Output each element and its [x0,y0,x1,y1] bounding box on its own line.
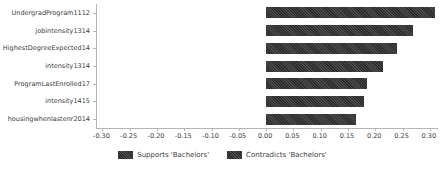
bar-chart-figure: UndergradProgram1112jobintensity1314High… [0,0,445,170]
bar [266,96,364,107]
category-label: ProgramLastEnrolled17 [0,80,90,88]
category-label: housingwhenlastenr2014 [0,115,90,123]
legend-item: Supports 'Bachelors' [118,151,209,159]
bar [266,114,356,125]
x-axis-tick [321,128,322,131]
x-axis-tick-label: 0.10 [312,132,326,140]
y-axis-tick [93,101,96,102]
x-axis-tick-label: -0.20 [148,132,165,140]
x-axis-tick [102,128,103,131]
y-axis-tick [93,84,96,85]
x-axis-tick [375,128,376,131]
bar [266,78,367,89]
bar [266,43,397,54]
legend-swatch-icon [118,151,133,159]
x-axis-tick-label: 0.15 [340,132,354,140]
category-label: intensity1314 [0,62,90,70]
x-axis-tick [430,128,431,131]
x-axis-tick [184,128,185,131]
category-label: intensity1415 [0,97,90,105]
x-axis-tick-label: -0.25 [120,132,137,140]
category-label: HighestDegreeExpected14 [0,44,90,52]
x-axis-tick-label: -0.30 [93,132,110,140]
y-axis-tick [93,66,96,67]
x-axis-tick [157,128,158,131]
x-axis-tick [266,128,267,131]
legend-swatch-icon [227,151,242,159]
bar [266,61,383,72]
category-label: jobintensity1314 [0,27,90,35]
x-axis-tick-label: 0.00 [258,132,272,140]
y-axis-tick [93,119,96,120]
x-axis-tick-label: 0.30 [422,132,436,140]
x-axis-tick [293,128,294,131]
x-axis-tick-label: -0.15 [175,132,192,140]
y-axis-tick [93,48,96,49]
x-axis-tick [239,128,240,131]
x-axis-tick [212,128,213,131]
x-axis-tick-label: -0.05 [229,132,246,140]
bar [266,7,435,18]
y-axis-tick [93,31,96,32]
x-axis-tick-label: 0.25 [394,132,408,140]
x-axis-tick [348,128,349,131]
x-axis-tick-label: -0.10 [202,132,219,140]
legend-label: Supports 'Bachelors' [137,151,209,159]
y-axis-tick [93,13,96,14]
x-axis-tick [130,128,131,131]
legend-label: Contradicts 'Bachelors' [246,151,327,159]
y-axis-category-labels: UndergradProgram1112jobintensity1314High… [0,4,90,128]
x-axis-tick-label: 0.05 [285,132,299,140]
category-label: UndergradProgram1112 [0,9,90,17]
legend-item: Contradicts 'Bachelors' [227,151,327,159]
bar [266,25,413,36]
x-axis-tick [403,128,404,131]
legend: Supports 'Bachelors'Contradicts 'Bachelo… [0,148,445,162]
plot-area [96,4,438,129]
x-axis-tick-label: 0.20 [367,132,381,140]
